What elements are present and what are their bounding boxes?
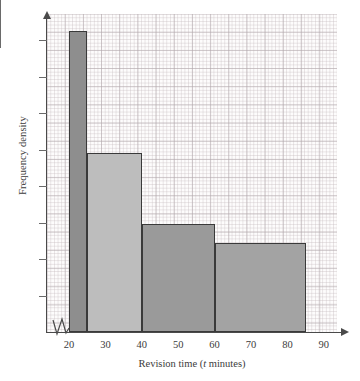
histogram-bar: [69, 31, 87, 332]
histogram-bar: [87, 153, 142, 332]
x-tick-label: 50: [166, 339, 190, 351]
y-tick: [39, 77, 47, 78]
x-tick-label: 90: [312, 339, 336, 351]
histogram-bar: [215, 243, 306, 332]
y-tick: [39, 296, 47, 297]
x-tick-label: 20: [57, 339, 81, 351]
y-axis-title: Frequency density: [17, 86, 28, 226]
x-tick-label: 60: [203, 339, 227, 351]
x-axis-line: [46, 332, 344, 333]
x-axis-break-icon: [51, 316, 73, 336]
x-tick-label: 30: [93, 339, 117, 351]
y-tick: [39, 259, 47, 260]
x-tick-label: 80: [275, 339, 299, 351]
x-axis-arrowhead: [341, 328, 349, 336]
y-tick: [39, 223, 47, 224]
x-axis-title-prefix: Revision time (: [138, 358, 203, 369]
y-axis-arrowhead: [43, 11, 51, 19]
histogram-figure: 2030405060708090 Frequency density Revis…: [0, 0, 360, 381]
y-tick: [39, 150, 47, 151]
x-tick-label: 70: [239, 339, 263, 351]
x-tick-label: 40: [130, 339, 154, 351]
histogram-bar: [142, 224, 215, 332]
y-tick: [39, 186, 47, 187]
y-tick: [39, 40, 47, 41]
x-axis-title: Revision time (t minutes): [47, 358, 337, 369]
y-axis-line: [46, 16, 47, 333]
y-tick: [39, 113, 47, 114]
x-axis-title-suffix: minutes): [206, 358, 245, 369]
